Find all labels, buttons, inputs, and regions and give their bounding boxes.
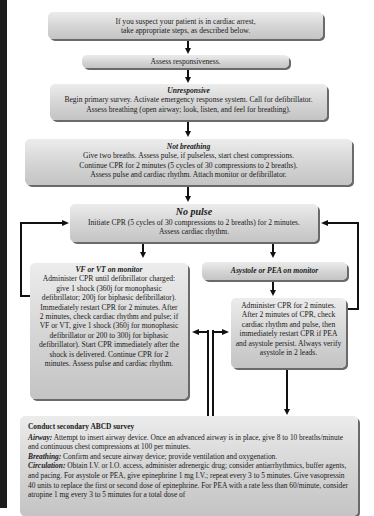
arrow-down-icon [270,290,276,296]
no-pulse-line-2: Assess cardiac rhythm. [159,227,229,236]
assess-text: Assess responsiveness. [150,57,220,66]
asystole-action-box: Administer CPR for 2 minutes. After 2 mi… [231,298,346,368]
vf-vt-heading: VF or VT on monitor [38,265,180,274]
not-breathing-line-2: Continue CPR for 2 minutes (5 cycles of … [79,161,297,170]
loop-line-right [357,222,359,309]
loop-line-left-bottom [20,295,30,297]
circulation-item: Circulation: Obtain I.V. or I.O. access,… [28,461,350,499]
loop-line-right-bottom [347,308,359,310]
not-breathing-line-1: Give two breaths. Assess pulse, if pulse… [83,151,294,160]
arrow-right-icon [222,329,229,335]
secondary-title: Conduct secondary ABCD survey [28,422,350,432]
connector [286,370,288,410]
vf-vt-box: VF or VT on monitor Administer CPR until… [30,263,188,399]
intro-line-1: If you suspect your patient is in cardia… [115,17,255,26]
airway-label: Airway: [28,433,52,442]
arrow-right-icon [62,220,69,226]
no-pulse-line-1: Initiate CPR (5 cycles of 30 compression… [88,218,300,227]
breathing-text: Confirm and secure airway device; provid… [61,452,277,461]
loop-line-left [20,222,22,296]
return-line-1 [207,330,209,416]
no-pulse-box: No pulse Initiate CPR (5 cycles of 30 co… [70,204,318,242]
return-line-2-top [212,331,223,333]
circulation-text: Obtain I.V. or I.O. access, administer a… [28,461,348,499]
no-pulse-heading: No pulse [70,206,318,218]
intro-line-2: take appropriate steps, as described bel… [121,26,250,35]
not-breathing-heading: Not breathing [25,142,352,151]
intro-box: If you suspect your patient is in cardia… [48,12,323,39]
arrow-down-icon [185,196,191,202]
arrow-down-icon [185,48,191,54]
unresponsive-box: Unresponsive Begin primary survey. Activ… [50,84,327,120]
loop-line-right-top [327,222,359,224]
airway-text: Attempt to insert airway device. Once an… [28,433,343,452]
unresponsive-heading: Unresponsive [50,86,327,95]
arrow-down-icon [140,252,146,258]
left-edge-bar [0,0,7,508]
arrow-down-icon [284,409,290,415]
arrow-down-icon [185,131,191,137]
asystole-action-body: Administer CPR for 2 minutes. After 2 mi… [236,301,342,357]
arrow-down-icon [185,77,191,83]
arrow-left-icon [321,220,328,226]
return-line-2 [212,330,214,416]
breathing-item: Breathing: Confirm and secure airway dev… [28,452,350,462]
asystole-pea-box: Asystole or PEA on monitor [202,262,347,280]
circulation-label: Circulation: [28,461,65,470]
arrow-down-icon [270,252,276,258]
unresponsive-line-1: Begin primary survey. Activate emergency… [64,95,312,104]
breathing-label: Breathing: [28,452,61,461]
not-breathing-box: Not breathing Give two breaths. Assess p… [25,139,352,185]
unresponsive-line-2: Assess breathing (open airway; look, lis… [86,105,291,114]
loop-line-left-top [20,222,62,224]
return-line-1-top [198,331,209,333]
assess-responsiveness-box: Assess responsiveness. [82,55,289,68]
not-breathing-line-3: Assess pulse and cardiac rhythm. Attach … [90,170,287,179]
airway-item: Airway: Attempt to insert airway device.… [28,433,350,452]
asystole-pea-heading: Asystole or PEA on monitor [202,266,347,275]
vf-vt-body: Administer CPR until defibrillator charg… [39,274,179,368]
secondary-survey-box: Conduct secondary ABCD survey Airway: At… [20,416,358,516]
